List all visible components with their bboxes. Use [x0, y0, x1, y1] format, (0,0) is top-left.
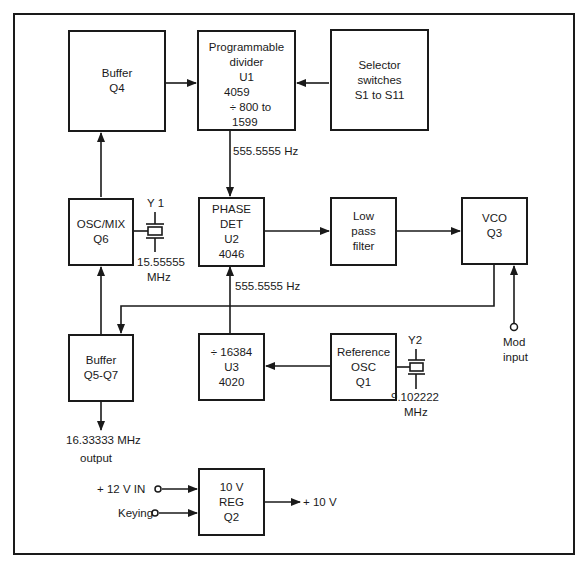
- block-label: DET: [220, 217, 243, 232]
- vco-block: VCO Q3: [461, 197, 528, 265]
- phase-detector-block: PHASE DET U2 4046: [198, 197, 265, 267]
- block-label: Programmable: [209, 40, 284, 55]
- block-label: Selector: [358, 58, 400, 73]
- block-label: filter: [353, 239, 375, 254]
- block-label: Q3: [487, 226, 502, 241]
- block-label: 4020: [219, 375, 245, 390]
- block-label: REG: [219, 495, 244, 510]
- block-label: U3: [224, 360, 239, 375]
- block-label: pass: [351, 224, 375, 239]
- block-label: ÷ 800 to: [230, 100, 271, 115]
- block-label: Buffer: [86, 353, 116, 368]
- block-label: 4046: [219, 247, 245, 262]
- block-label: Q6: [93, 232, 108, 247]
- crystal-y2-unit: MHz: [404, 405, 428, 420]
- divider-output-frequency: 555.5555 Hz: [233, 144, 298, 159]
- block-label: switches: [357, 73, 401, 88]
- output-label: output: [80, 451, 112, 466]
- v12-input-label: + 12 V IN: [97, 482, 145, 497]
- block-label: OSC: [351, 360, 376, 375]
- buffer-q4-block: Buffer Q4: [68, 30, 166, 132]
- keying-input-label: Keying: [118, 506, 153, 521]
- programmable-divider-block: Programmable divider U1 4059 ÷ 800 to 15…: [197, 30, 296, 131]
- osc-mix-block: OSC/MIX Q6: [68, 198, 134, 266]
- block-label: ÷ 16384: [211, 345, 253, 360]
- block-label: Q2: [224, 510, 239, 525]
- reference-osc-block: Reference OSC Q1: [330, 333, 397, 401]
- block-label: 10 V: [220, 480, 244, 495]
- block-label: Q4: [109, 81, 124, 96]
- mod-input-label: input: [503, 350, 528, 365]
- block-label: U2: [224, 232, 239, 247]
- crystal-y2-label: Y2: [408, 333, 422, 348]
- block-label: divider: [230, 55, 264, 70]
- crystal-y1-label: Y 1: [147, 196, 164, 211]
- block-label: Buffer: [102, 66, 132, 81]
- buffer-q5-q7-block: Buffer Q5-Q7: [68, 334, 134, 402]
- block-label: S1 to S11: [355, 88, 405, 103]
- block-label: U1: [239, 70, 254, 85]
- crystal-y2-frequency: 9.102222: [391, 390, 439, 405]
- crystal-y1-frequency: 15.55555: [137, 255, 185, 270]
- block-label: PHASE: [212, 202, 251, 217]
- mod-input-terminal: [511, 324, 518, 331]
- reference-frequency: 555.5555 Hz: [235, 279, 300, 294]
- divider-16384-block: ÷ 16384 U3 4020: [198, 333, 265, 401]
- v10-output-label: + 10 V: [303, 495, 337, 510]
- block-label: Q5-Q7: [84, 368, 119, 383]
- mod-input-label: Mod: [503, 335, 525, 350]
- v12-input-terminal: [155, 486, 161, 492]
- output-frequency-label: 16.33333 MHz: [66, 433, 141, 448]
- low-pass-filter-block: Low pass filter: [330, 197, 397, 266]
- crystal-y1-unit: MHz: [147, 270, 171, 285]
- block-label: 1599: [232, 115, 258, 130]
- block-label: 4059: [224, 85, 250, 100]
- block-label: OSC/MIX: [77, 217, 126, 232]
- block-label: Q1: [356, 375, 371, 390]
- selector-switches-block: Selector switches S1 to S11: [330, 29, 429, 131]
- block-label: Reference: [337, 345, 390, 360]
- regulator-10v-block: 10 V REG Q2: [198, 468, 265, 536]
- block-label: VCO: [482, 211, 507, 226]
- block-label: Low: [353, 209, 374, 224]
